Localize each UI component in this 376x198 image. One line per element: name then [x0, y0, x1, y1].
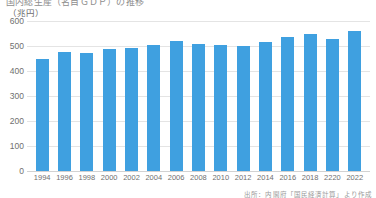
x-axis-tick-labels: 1994199619982000200220042006200820102012…: [27, 173, 370, 182]
bar[interactable]: [192, 44, 205, 172]
bar[interactable]: [58, 52, 71, 171]
x-axis-tick: 1996: [53, 173, 75, 182]
x-axis-tick: 2006: [165, 173, 187, 182]
bar[interactable]: [348, 31, 361, 171]
gridline: [27, 171, 370, 172]
bar[interactable]: [259, 42, 272, 172]
x-axis-tick: 2012: [232, 173, 254, 182]
y-axis-tick: 400: [10, 67, 24, 76]
bar-column: [31, 21, 53, 171]
y-axis-tick: 500: [10, 42, 24, 51]
bar-column: [165, 21, 187, 171]
bar-column: [143, 21, 165, 171]
bar[interactable]: [304, 34, 317, 171]
bar[interactable]: [214, 45, 227, 171]
source-note: 出所：内閣府「国民経済計算」より作成: [244, 189, 372, 198]
bar[interactable]: [125, 48, 138, 171]
bar-column: [299, 21, 321, 171]
x-axis-tick: 2022: [344, 173, 366, 182]
bar[interactable]: [170, 41, 183, 172]
bar-column: [344, 21, 366, 171]
x-axis-tick: 1998: [76, 173, 98, 182]
y-axis-tick: 0: [19, 167, 24, 176]
y-axis-tick: 600: [10, 17, 24, 26]
bar-series: [27, 21, 370, 171]
bar[interactable]: [80, 53, 93, 171]
x-axis-tick: 2018: [299, 173, 321, 182]
y-axis-tick: 300: [10, 92, 24, 101]
y-axis-tick: 200: [10, 117, 24, 126]
bar-column: [120, 21, 142, 171]
x-axis-tick: 2014: [254, 173, 276, 182]
x-axis-tick: 2008: [187, 173, 209, 182]
bar[interactable]: [147, 45, 160, 171]
bar-column: [254, 21, 276, 171]
bar-column: [232, 21, 254, 171]
chart-container: 国内総生産（名目ＧＤＰ）の推移 （兆円） 0100200300400500600…: [0, 0, 376, 198]
x-axis-tick: 2002: [120, 173, 142, 182]
bar-column: [187, 21, 209, 171]
bar[interactable]: [326, 39, 339, 171]
bar[interactable]: [237, 46, 250, 171]
bar-column: [76, 21, 98, 171]
x-axis-tick: 2010: [210, 173, 232, 182]
x-axis-tick: 2004: [143, 173, 165, 182]
bar[interactable]: [103, 49, 116, 171]
bar-column: [210, 21, 232, 171]
x-axis-tick: 1994: [31, 173, 53, 182]
bar-column: [321, 21, 343, 171]
bar-column: [53, 21, 75, 171]
bar-column: [98, 21, 120, 171]
x-axis-tick: 2000: [98, 173, 120, 182]
y-axis-tick-labels: 0100200300400500600: [0, 0, 27, 198]
bar[interactable]: [36, 59, 49, 172]
bar[interactable]: [281, 37, 294, 172]
x-axis-tick: 2220: [321, 173, 343, 182]
bar-column: [277, 21, 299, 171]
x-axis-tick: 2016: [277, 173, 299, 182]
y-axis-tick: 100: [10, 142, 24, 151]
